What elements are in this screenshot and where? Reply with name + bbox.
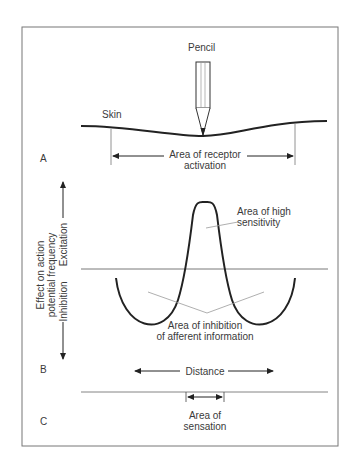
skin-label: Skin	[102, 109, 121, 120]
sensation-area-label: Area of sensation	[175, 410, 235, 432]
panel-label-c: C	[40, 416, 47, 427]
excitation-label: Excitation	[58, 215, 69, 275]
high-sensitivity-label: Area of high sensitivity	[237, 206, 291, 228]
pencil-icon	[196, 62, 210, 136]
inhibition-label: Inhibition	[58, 272, 69, 332]
y-axis-title: Effect on action potential frequency	[35, 215, 59, 335]
panel-label-b: B	[40, 364, 47, 375]
pencil-label: Pencil	[188, 42, 215, 53]
figure-frame	[22, 27, 338, 446]
distance-label: Distance	[180, 366, 230, 377]
high-sensitivity-pointer	[206, 222, 238, 228]
panel-label-a: A	[40, 153, 47, 164]
receptor-activation-label: Area of receptor activation	[160, 149, 250, 171]
inhibition-pointer-left	[148, 292, 207, 313]
inhibition-area-label: Area of inhibition of afferent informati…	[145, 320, 265, 342]
sensation-bracket	[186, 392, 224, 402]
